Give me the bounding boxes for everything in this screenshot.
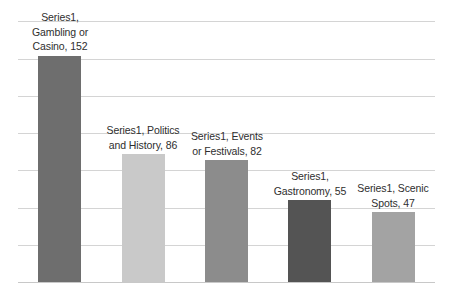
data-label[interactable]: Series1, ScenicSpots, 47 xyxy=(339,181,447,210)
data-label-line: or Festivals, 82 xyxy=(173,144,281,159)
data-label-line: Spots, 47 xyxy=(339,196,447,211)
bar[interactable] xyxy=(38,56,81,282)
bar[interactable] xyxy=(205,160,248,282)
data-label-line: Series1, xyxy=(6,10,114,25)
data-label-line: Series1, Scenic xyxy=(339,181,447,196)
axis-baseline xyxy=(18,282,435,283)
data-label-line: Gambling or xyxy=(6,25,114,40)
data-label-line: Series1, Events xyxy=(173,129,281,144)
bar-chart: Series1,Gambling orCasino, 152Series1, P… xyxy=(0,0,452,297)
data-label-line: Casino, 152 xyxy=(6,39,114,54)
bar[interactable] xyxy=(372,212,415,282)
bar[interactable] xyxy=(122,154,165,282)
data-label[interactable]: Series1, Eventsor Festivals, 82 xyxy=(173,129,281,158)
data-label[interactable]: Series1,Gambling orCasino, 152 xyxy=(6,10,114,54)
bar[interactable] xyxy=(288,200,331,282)
